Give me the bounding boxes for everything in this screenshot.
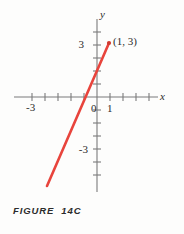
plotted-line [47,43,109,186]
x-tick-label-zero: 0 [91,102,97,114]
y-tick-label-neg3: -3 [79,143,89,155]
x-axis-label: x [159,90,165,102]
figure-caption: FIGURE 14C [13,205,82,216]
point-annotation-label: (1, 3) [113,35,137,48]
y-tick-label-3: 3 [79,38,85,50]
x-tick-label-one: 1 [107,102,113,114]
point-marker-1-3 [107,41,111,45]
coordinate-plot: x y -3 0 1 3 -3 (1, 3) [0,0,184,234]
x-tick-label-neg3: -3 [26,101,36,113]
figure-container: x y -3 0 1 3 -3 (1, 3) FIGURE 14C [0,0,184,234]
y-axis-label: y [99,8,105,20]
